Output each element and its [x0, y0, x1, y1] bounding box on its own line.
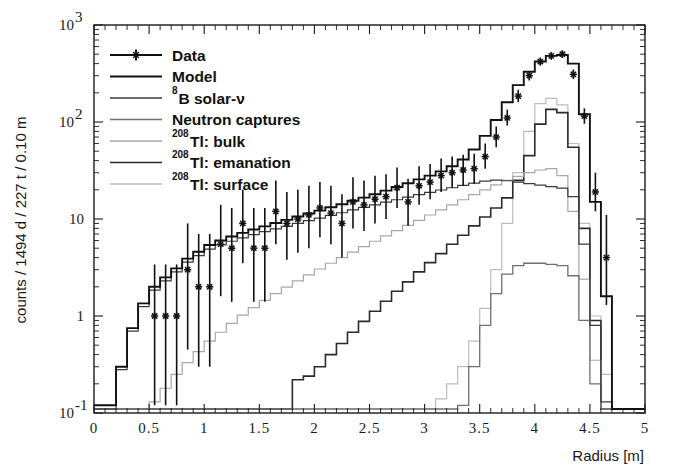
scientific-plot: 00.511.522.533.544.55 10310210110-1 Data… — [0, 0, 680, 476]
legend-superscript: 208 — [172, 149, 189, 160]
y-tick-label: 10 — [69, 211, 84, 227]
x-tick-label: 1 — [200, 420, 209, 436]
legend-label: Tl: bulk — [190, 133, 245, 150]
svg-text:1: 1 — [77, 308, 85, 324]
legend-superscript: 8 — [172, 85, 178, 96]
legend-label: Neutron captures — [172, 111, 300, 128]
svg-text:10: 10 — [59, 17, 74, 33]
svg-text:-1: -1 — [75, 397, 88, 413]
legend-superscript: 208 — [172, 128, 189, 139]
x-tick-label: 3.5 — [469, 420, 491, 436]
svg-text:2: 2 — [75, 106, 83, 122]
legend-label: Tl: emanation — [190, 154, 291, 171]
svg-text:10: 10 — [59, 114, 74, 130]
legend-label: Tl: surface — [190, 176, 269, 193]
figure-container: 00.511.522.533.544.55 10310210110-1 Data… — [0, 0, 680, 476]
y-tick-label: 1 — [77, 308, 85, 324]
legend-label: Model — [172, 68, 217, 85]
x-tick-label: 2 — [310, 420, 319, 436]
x-axis-title: Radius [m] — [572, 447, 644, 464]
svg-text:3: 3 — [75, 9, 83, 25]
x-tick-label: 0.5 — [138, 420, 160, 436]
legend-label: Data — [172, 47, 206, 64]
x-tick-label: 4.5 — [579, 420, 601, 436]
x-tick-label: 3 — [420, 420, 429, 436]
svg-text:10: 10 — [69, 211, 84, 227]
x-tick-label: 1.5 — [248, 420, 270, 436]
y-axis-title: counts / 1494 d / 227 t / 0.10 m — [12, 117, 29, 324]
data-point — [548, 52, 555, 59]
legend-superscript: 208 — [172, 171, 189, 182]
x-tick-label: 2.5 — [359, 420, 381, 436]
x-tick-label: 5 — [641, 420, 650, 436]
data-point — [559, 50, 566, 57]
legend-label: B solar-ν — [179, 90, 245, 107]
x-tick-label: 4 — [531, 420, 540, 436]
x-tick-label: 0 — [90, 420, 99, 436]
svg-text:10: 10 — [59, 405, 74, 421]
